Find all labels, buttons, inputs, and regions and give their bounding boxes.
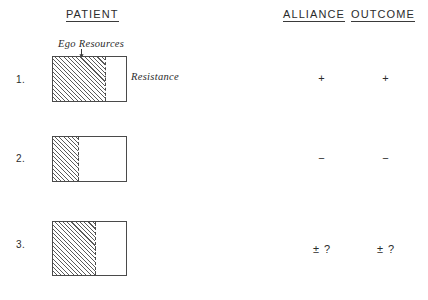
row-number: 2. — [16, 153, 25, 164]
row-number: 1. — [16, 74, 25, 85]
alliance-value: ± ? — [313, 243, 331, 255]
figure-panel: PATIENT ALLIANCE OUTCOME Ego Resources R… — [0, 0, 428, 300]
ego-resources-label: Ego Resources — [58, 38, 124, 49]
alliance-value: + — [318, 72, 325, 84]
resistance-label: Resistance — [131, 71, 179, 82]
outcome-value: ± ? — [377, 243, 395, 255]
outcome-value: − — [382, 152, 389, 164]
row-number: 3. — [16, 239, 25, 250]
outcome-value: + — [382, 72, 389, 84]
alliance-value: − — [318, 152, 325, 164]
column-header-alliance: ALLIANCE — [283, 8, 345, 22]
patient-bar — [52, 136, 127, 182]
patient-bar — [52, 56, 127, 102]
ego-resources-segment — [53, 222, 96, 275]
column-header-outcome: OUTCOME — [351, 8, 415, 22]
ego-resources-segment — [53, 57, 106, 101]
column-header-patient: PATIENT — [66, 8, 119, 22]
ego-resources-segment — [53, 137, 79, 181]
patient-bar — [52, 221, 127, 276]
